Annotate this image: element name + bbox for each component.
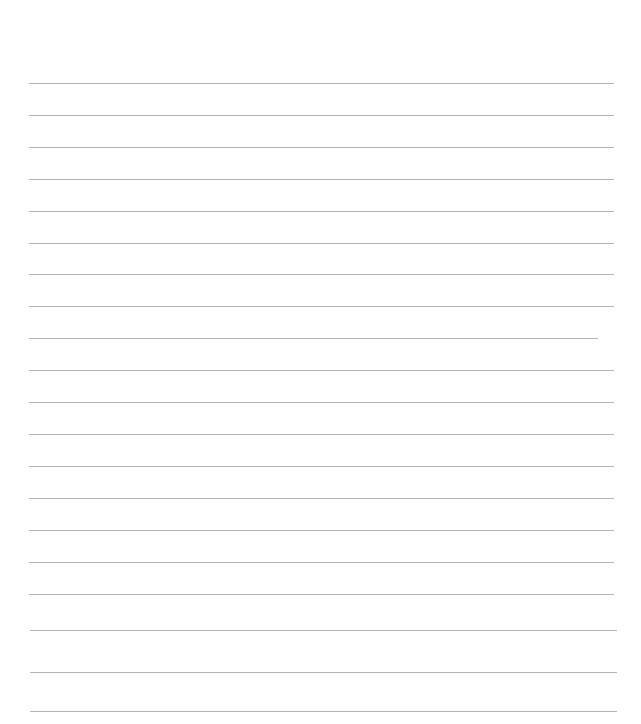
ruled-line <box>29 530 614 531</box>
ruled-line <box>29 338 598 339</box>
ruled-line <box>29 147 614 148</box>
ruled-line <box>29 370 614 371</box>
ruled-line <box>29 211 614 212</box>
lined-paper <box>0 0 641 724</box>
ruled-line <box>30 630 617 631</box>
ruled-line <box>29 274 614 275</box>
ruled-line <box>29 115 614 116</box>
ruled-line <box>29 466 614 467</box>
ruled-line <box>29 179 614 180</box>
ruled-line <box>29 83 614 84</box>
ruled-line <box>29 306 614 307</box>
ruled-line <box>29 402 614 403</box>
ruled-line <box>30 672 617 673</box>
ruled-line <box>29 562 614 563</box>
ruled-line <box>30 711 617 712</box>
ruled-line <box>29 498 614 499</box>
ruled-line <box>29 434 614 435</box>
ruled-line <box>29 243 614 244</box>
ruled-line <box>29 594 614 595</box>
